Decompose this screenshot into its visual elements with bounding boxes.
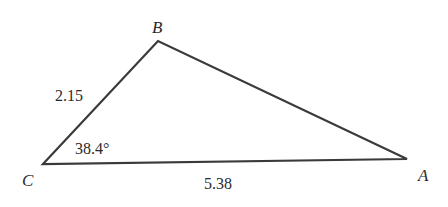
- angle-label-c: 38.4°: [75, 140, 109, 157]
- triangle-svg: B C A 2.15 38.4° 5.38: [0, 0, 448, 207]
- vertex-label-a: A: [417, 166, 429, 185]
- triangle-diagram: B C A 2.15 38.4° 5.38: [0, 0, 448, 207]
- vertex-label-b: B: [152, 18, 163, 37]
- side-label-ca: 5.38: [204, 175, 232, 192]
- vertex-label-c: C: [22, 171, 34, 190]
- side-label-bc: 2.15: [55, 87, 83, 104]
